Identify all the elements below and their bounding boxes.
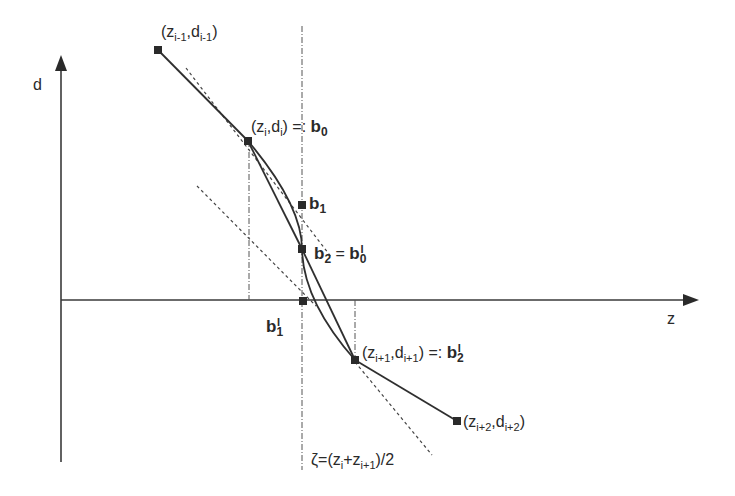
marker-p-im1 xyxy=(154,46,162,54)
label-p-im1: (zi-1,di-1) xyxy=(161,24,217,43)
label-b1: b1 xyxy=(309,195,326,215)
point-markers xyxy=(154,46,461,425)
x-axis-label: z xyxy=(667,311,675,327)
marker-b1-prime xyxy=(299,297,307,305)
marker-b0 xyxy=(244,137,252,145)
marker-b1 xyxy=(298,201,306,209)
label-p-ip2: (zi+2,di+2) xyxy=(463,414,525,433)
axes xyxy=(55,55,699,462)
zeta-label: ζ=(zi+zi+1)/2 xyxy=(311,452,394,471)
tangent-at-p-ip1 xyxy=(355,362,432,455)
y-axis-label: d xyxy=(33,77,42,93)
control-polygon xyxy=(158,50,457,421)
label-b2-prime: (zi+1,di+1) =: b2I xyxy=(362,343,461,364)
label-b2-b0-prime: b2 = b0I xyxy=(314,244,363,265)
y-axis-arrow-icon xyxy=(55,55,67,71)
label-b1-prime: b1I xyxy=(266,317,280,338)
marker-p-ip2 xyxy=(453,417,461,425)
bezier-interpolation-diagram xyxy=(0,0,735,496)
label-b0: (zi,di) =: b0 xyxy=(251,118,328,138)
marker-b2 xyxy=(298,245,306,253)
marker-b2-prime xyxy=(351,356,359,364)
x-axis-arrow-icon xyxy=(683,294,699,306)
